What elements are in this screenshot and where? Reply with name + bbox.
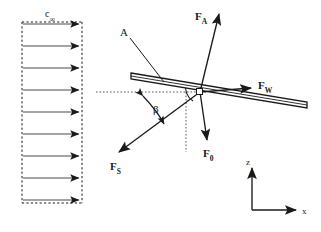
plate-area-label: A: [120, 27, 128, 38]
force-label-F0: F0: [203, 148, 213, 162]
freestream-velocity-label: c∞: [45, 9, 55, 22]
figure-svg: [0, 0, 321, 232]
axis-label-z: z: [246, 158, 250, 167]
force-label-FA: FA: [195, 11, 207, 25]
force-label-FW: FW: [258, 80, 272, 94]
force-vector-F0: [200, 92, 207, 140]
coordinate-axes: [252, 168, 296, 210]
diagram-canvas: c∞ A FA FW F0 FS β z x: [0, 0, 321, 232]
force-label-FS: FS: [110, 161, 121, 175]
force-vector-FS: [119, 92, 200, 152]
force-application-point-marker: [197, 89, 203, 95]
flow-velocity-arrows: [23, 24, 79, 200]
angle-label-beta: β: [153, 104, 159, 115]
axis-label-x: x: [302, 207, 307, 216]
